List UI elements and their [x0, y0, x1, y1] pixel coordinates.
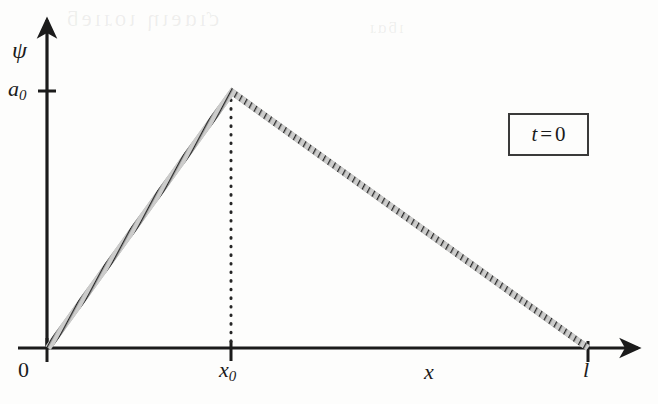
x-axis-tick-label-x0: x0 [219, 359, 236, 384]
time-operator: = [537, 122, 555, 146]
x0-base: x [219, 357, 229, 382]
waveform-curve [48, 92, 588, 348]
tick-marks [38, 91, 588, 362]
time-value: 0 [555, 122, 566, 146]
time-annotation-text: t=0 [531, 124, 565, 145]
x-axis-tick-label-l: l [583, 359, 589, 381]
x0-subscript: 0 [229, 368, 236, 384]
figure-container: ƈıɑеιη ιοɹıеƃ ıƃɑɹ [0, 0, 658, 404]
y-tick-base: a [8, 76, 19, 101]
plot-graphics [0, 0, 658, 404]
y-tick-subscript: 0 [19, 87, 26, 103]
x-axis-origin-label: 0 [18, 359, 29, 381]
axis-lines [18, 20, 638, 348]
y-axis-label: ψ [12, 38, 27, 62]
time-annotation-box: t=0 [508, 113, 589, 156]
x-axis-label: x [424, 361, 434, 383]
y-axis-tick-label-a0: a0 [8, 78, 26, 103]
